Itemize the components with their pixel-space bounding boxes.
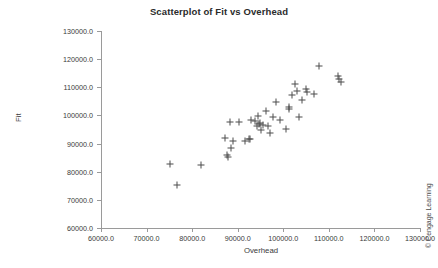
data-point-marker <box>291 81 298 88</box>
data-point-marker <box>337 78 344 85</box>
data-point-marker <box>272 99 279 106</box>
data-point-marker <box>285 105 292 112</box>
data-point-marker <box>222 134 229 141</box>
x-tick-label: 120000.0 <box>359 234 389 243</box>
data-point-marker <box>296 113 303 120</box>
data-point-marker <box>264 122 271 129</box>
data-point-marker <box>335 75 342 82</box>
data-point-marker <box>257 127 264 134</box>
x-tick-label: 80000.0 <box>179 234 205 243</box>
x-tick <box>374 228 375 232</box>
data-point-marker <box>255 112 262 119</box>
y-tick-label: 130000.0 <box>0 27 93 36</box>
x-tick <box>147 228 148 232</box>
x-tick <box>283 228 284 232</box>
data-point-marker <box>289 92 296 99</box>
x-tick <box>420 228 421 232</box>
x-axis-label: Overhead <box>101 246 421 255</box>
y-tick-label: 90000.0 <box>0 139 93 148</box>
data-point-marker <box>334 72 341 79</box>
data-point-marker <box>286 103 293 110</box>
data-point-marker <box>256 121 263 128</box>
data-point-marker <box>245 136 252 143</box>
x-tick <box>101 228 102 232</box>
data-point-marker <box>229 137 236 144</box>
data-point-marker <box>224 154 231 161</box>
x-tick <box>238 228 239 232</box>
x-tick-label: 70000.0 <box>134 234 160 243</box>
data-point-marker <box>267 129 274 136</box>
data-point-marker <box>283 125 290 132</box>
x-tick-label: 100000.0 <box>268 234 298 243</box>
data-point-marker <box>236 119 243 126</box>
data-point-marker <box>304 89 311 96</box>
data-point-marker <box>254 122 261 129</box>
data-point-marker <box>166 161 173 168</box>
y-tick-label: 80000.0 <box>0 167 93 176</box>
data-point-marker <box>299 97 306 104</box>
y-tick-label: 70000.0 <box>0 195 93 204</box>
data-point-marker <box>260 121 267 128</box>
data-point-marker <box>310 91 317 98</box>
scatterplot-figure: Scatterplot of Fit vs Overhead Overhead … <box>0 0 438 268</box>
data-point-marker <box>269 114 276 121</box>
data-point-marker <box>302 85 309 92</box>
chart-title: Scatterplot of Fit vs Overhead <box>0 6 438 17</box>
data-point-marker <box>228 144 235 151</box>
data-point-marker <box>174 182 181 189</box>
data-point-marker <box>252 118 259 125</box>
data-point-marker <box>248 117 255 124</box>
data-point-marker <box>227 119 234 126</box>
data-point-marker <box>224 152 231 159</box>
plot-area <box>101 31 420 228</box>
x-axis-line <box>101 228 421 229</box>
x-tick-label: 60000.0 <box>88 234 114 243</box>
data-point-marker <box>246 136 253 143</box>
data-point-marker <box>241 137 248 144</box>
data-point-marker <box>316 63 323 70</box>
x-tick <box>329 228 330 232</box>
data-point-marker <box>277 117 284 124</box>
y-tick-label: 100000.0 <box>0 111 93 120</box>
y-tick-label: 110000.0 <box>0 83 93 92</box>
x-tick-label: 90000.0 <box>225 234 251 243</box>
y-tick-label: 120000.0 <box>0 55 93 64</box>
y-tick <box>97 228 101 229</box>
data-point-marker <box>198 162 205 169</box>
y-tick-label: 60000.0 <box>0 224 93 233</box>
x-tick-label: 110000.0 <box>314 234 343 243</box>
data-point-marker <box>257 120 264 127</box>
x-tick-label: 130000.0 <box>405 234 435 243</box>
data-point-marker <box>262 108 269 115</box>
data-point-marker <box>293 87 300 94</box>
x-tick <box>192 228 193 232</box>
